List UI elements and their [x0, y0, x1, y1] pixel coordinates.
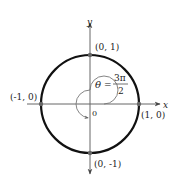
- point-0-1: [88, 53, 92, 57]
- angle-numerator: 3π: [114, 73, 126, 83]
- equals-sign: =: [104, 80, 112, 90]
- theta-symbol: θ: [95, 79, 101, 90]
- origin-label: 0: [92, 109, 97, 118]
- point-1-0: [137, 102, 141, 106]
- point-neg1-0: [39, 102, 43, 106]
- y-axis-label: y: [86, 17, 93, 27]
- point-0-neg1: [88, 151, 92, 155]
- label-1-0: (1, 0): [141, 110, 165, 120]
- label-0-neg1: (0, -1): [94, 159, 121, 169]
- unit-circle-diagram: y x 0 (0, 1) (-1, 0) (1, 0) (0, -1) θ = …: [0, 0, 178, 185]
- x-axis-label: x: [163, 100, 168, 110]
- angle-denominator: 2: [118, 86, 124, 96]
- label-neg1-0: (-1, 0): [10, 92, 37, 102]
- label-0-1: (0, 1): [95, 42, 119, 52]
